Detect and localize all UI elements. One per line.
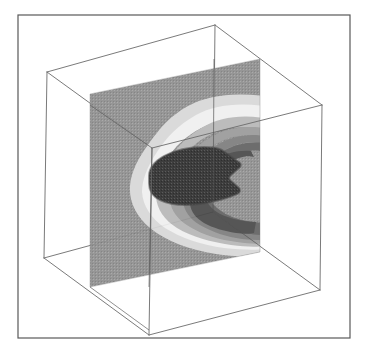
contour-slice-figure <box>0 0 368 354</box>
cube-edge-front-right <box>320 105 322 290</box>
cube-edge-front-bottom <box>149 290 320 335</box>
cube-edge-connect-bottom-left-over-slice <box>90 287 149 330</box>
cube-edge-back-left <box>44 72 47 258</box>
figure-container <box>0 0 368 354</box>
contour-slice-plane <box>90 59 264 287</box>
cube-edge-back-top <box>47 25 215 72</box>
